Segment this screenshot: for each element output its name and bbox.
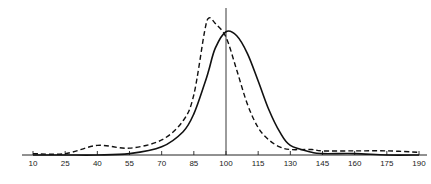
x-tick-label: 55	[125, 159, 134, 168]
x-tick-label: 145	[316, 159, 330, 168]
x-tick-label: 160	[348, 159, 362, 168]
x-tick-label: 100	[219, 159, 233, 168]
x-tick-label: 25	[61, 159, 70, 168]
x-tick-label: 130	[284, 159, 298, 168]
x-tick-labels: 102540557085100115130145160175190	[29, 159, 427, 168]
x-tick-label: 175	[380, 159, 394, 168]
x-tick-label: 85	[189, 159, 198, 168]
x-tick-label: 40	[93, 159, 102, 168]
x-tick-label: 115	[252, 159, 265, 168]
distribution-chart: 102540557085100115130145160175190	[0, 0, 431, 184]
x-tick-label: 10	[29, 159, 38, 168]
x-tick-label: 70	[157, 159, 166, 168]
x-tick-label: 190	[412, 159, 426, 168]
